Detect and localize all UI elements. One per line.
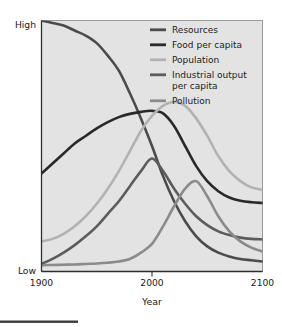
legend-label-resources: Resources <box>172 25 218 35</box>
world3-line-chart: High Low 1900 2000 2100 Year ResourcesFo… <box>0 0 282 327</box>
legend-label-food-per-capita: Food per capita <box>172 40 242 50</box>
legend-label-industrial-output-line2: per capita <box>172 81 218 91</box>
footer-bar <box>0 321 78 323</box>
x-axis-title: Year <box>141 296 162 307</box>
y-axis-low-label: Low <box>18 265 37 276</box>
chart-figure: High Low 1900 2000 2100 Year ResourcesFo… <box>0 0 282 327</box>
x-tick-label-1900: 1900 <box>30 277 54 288</box>
legend-label-population: Population <box>172 55 219 65</box>
legend-label-pollution: Pollution <box>172 96 211 106</box>
legend-label-industrial-output: Industrial output <box>172 70 247 80</box>
y-axis-high-label: High <box>15 19 36 30</box>
x-tick-label-2100: 2100 <box>251 277 275 288</box>
x-tick-label-2000: 2000 <box>140 277 164 288</box>
